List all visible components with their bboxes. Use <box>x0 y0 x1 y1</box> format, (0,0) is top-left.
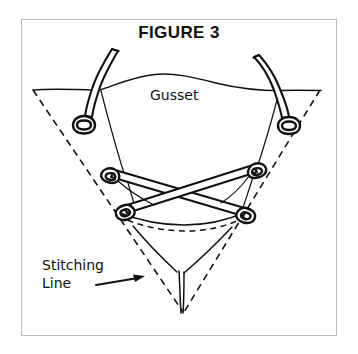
tail-right <box>183 272 184 313</box>
stitching-line-annotation: Stitching Line <box>42 257 145 291</box>
top-left-stitch-cord <box>73 49 119 134</box>
annotation-arrow-line <box>96 278 138 285</box>
cord-a-top-loop <box>101 168 119 183</box>
gusset-left-upper <box>101 91 124 173</box>
cord-b-bottom-loop <box>116 205 135 220</box>
figure-root: FIGURE 3 <box>0 0 358 354</box>
cone-left-line <box>133 226 177 272</box>
right-cord-shaft <box>254 55 289 118</box>
gusset-label: Gusset <box>150 87 199 103</box>
stitching-line-label-1: Stitching <box>42 257 104 273</box>
cone-right-line <box>184 227 232 273</box>
tail-left <box>179 271 181 313</box>
left-cord-shaft <box>85 49 118 117</box>
figure-title: FIGURE 3 <box>138 23 220 42</box>
top-right-stitch-cord <box>253 55 300 134</box>
right-eyelet-loop <box>278 117 300 134</box>
gusset-bottom-point <box>133 226 232 313</box>
stitching-line-label-2: Line <box>42 275 71 291</box>
gusset-base-curve <box>117 212 246 225</box>
annotation-arrow-head <box>133 275 145 283</box>
cord-a-bottom-loop <box>236 208 255 223</box>
top-edge-left <box>33 89 99 90</box>
left-eyelet-loop <box>73 116 95 134</box>
figure-drawing: FIGURE 3 <box>0 0 358 354</box>
